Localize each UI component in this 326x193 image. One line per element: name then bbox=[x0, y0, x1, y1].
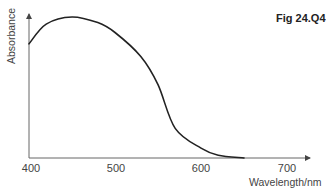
x-tick-400: 400 bbox=[22, 162, 40, 174]
x-axis-label: Wavelength/nm bbox=[249, 176, 322, 188]
x-tick-500: 500 bbox=[107, 162, 125, 174]
y-axis-label: Absorbance bbox=[5, 8, 17, 64]
figure-label: Fig 24.Q4 bbox=[276, 12, 326, 24]
x-tick-700: 700 bbox=[278, 162, 296, 174]
x-tick-600: 600 bbox=[192, 162, 210, 174]
absorbance-curve bbox=[29, 17, 244, 158]
